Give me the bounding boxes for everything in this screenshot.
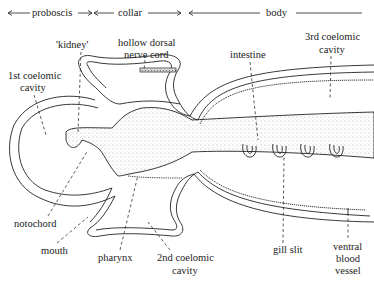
gut bbox=[66, 108, 374, 177]
region-proboscis: proboscis bbox=[32, 7, 72, 18]
label-coelom2-line1: 2nd coelomic bbox=[157, 252, 214, 263]
label-coelom3-line1: 3rd coelomic bbox=[305, 31, 360, 42]
leader-gill-slit bbox=[283, 156, 284, 243]
label-coelom2-line2: cavity bbox=[172, 265, 198, 276]
arrow-left-icon bbox=[8, 11, 30, 16]
arrow-left-icon bbox=[94, 11, 114, 16]
arrow-left-icon bbox=[189, 11, 260, 16]
region-body: body bbox=[266, 7, 288, 18]
label-nerve-cord-line1: hollow dorsal bbox=[118, 37, 176, 48]
proboscis bbox=[10, 96, 115, 206]
region-collar: collar bbox=[118, 7, 142, 18]
label-gill-slit: gill slit bbox=[273, 244, 303, 255]
label-coelom3-line2: cavity bbox=[319, 44, 345, 55]
label-vbv-line2: blood bbox=[336, 253, 361, 264]
label-mouth: mouth bbox=[41, 245, 69, 256]
leader-coelom2 bbox=[148, 222, 170, 250]
label-notochord: notochord bbox=[14, 218, 57, 229]
hemichordate-diagram: proboscis collar body bbox=[0, 0, 374, 284]
nerve-cord bbox=[140, 68, 176, 72]
leader-pharynx bbox=[120, 175, 138, 250]
leader-mouth bbox=[57, 217, 88, 243]
leader-coelom3 bbox=[330, 56, 331, 100]
label-intestine: intestine bbox=[230, 49, 266, 60]
leader-coelom1 bbox=[34, 95, 46, 135]
label-vbv-line1: ventral bbox=[333, 241, 362, 252]
label-nerve-cord-line2: nerve cord bbox=[124, 49, 169, 60]
label-pharynx: pharynx bbox=[98, 252, 133, 263]
label-kidney: 'kidney' bbox=[56, 39, 88, 50]
label-coelom1-line2: cavity bbox=[20, 82, 46, 93]
label-coelom1-line1: 1st coelomic bbox=[8, 70, 62, 81]
body-lower-wall bbox=[194, 170, 374, 222]
collar-lower bbox=[88, 172, 198, 237]
arrow-right-icon bbox=[78, 11, 92, 16]
arrow-right-icon bbox=[148, 11, 181, 16]
label-vbv-line3: vessel bbox=[335, 265, 361, 276]
region-header: proboscis collar body bbox=[8, 7, 362, 18]
